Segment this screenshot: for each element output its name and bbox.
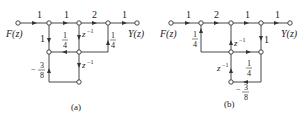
gain-label: 2 xyxy=(214,9,219,20)
gain-numerator: 3 xyxy=(244,83,248,92)
labels-a: 1 1 2 1 F(z) Y(z) 1 1 4 z −1 1 4 z −1 − … xyxy=(5,9,145,112)
arrow-icon xyxy=(106,40,110,45)
arrow-icon xyxy=(77,35,81,40)
arrow-icon xyxy=(274,21,279,25)
arrow-icon xyxy=(122,21,127,25)
gain-label: 1 xyxy=(245,9,250,20)
delay-label: z xyxy=(216,63,221,73)
output-label: Y(z) xyxy=(281,28,298,40)
branch-d-a xyxy=(201,25,229,52)
arrow-icon xyxy=(246,50,251,54)
node-input-b xyxy=(169,21,173,25)
node-b4 xyxy=(229,50,233,54)
arrow-icon xyxy=(62,50,67,54)
arrow-icon xyxy=(244,21,249,25)
arrow-icon xyxy=(199,28,203,33)
node-b5 xyxy=(259,50,263,54)
node-output-b xyxy=(288,21,292,25)
delay-label: z xyxy=(81,60,86,70)
gain-numerator: 1 xyxy=(193,30,197,39)
arrow-icon xyxy=(63,21,68,25)
diagram-a: 1 1 2 1 F(z) Y(z) 1 1 4 z −1 1 4 z −1 − … xyxy=(5,9,145,112)
delay-exponent: −1 xyxy=(239,37,245,43)
delay-exponent: −1 xyxy=(87,59,93,65)
gain-numerator: 3 xyxy=(40,61,44,70)
gain-numerator: 1 xyxy=(111,31,115,40)
arrow-icon xyxy=(47,68,51,73)
input-label: F(z) xyxy=(159,28,177,40)
node-b3 xyxy=(259,21,263,25)
gain-numerator: 1 xyxy=(247,59,251,68)
diagram-b: 1 2 1 1 F(z) Y(z) 1 4 z −1 1 1 4 z −1 − … xyxy=(159,9,298,109)
delay-exponent: −1 xyxy=(222,62,228,68)
gain-denominator: 8 xyxy=(40,71,44,80)
arrow-icon xyxy=(214,21,219,25)
arrow-icon xyxy=(259,36,263,41)
arrow-icon xyxy=(92,21,97,25)
input-label: F(z) xyxy=(5,28,23,40)
gain-denominator: 8 xyxy=(244,93,248,102)
node-input-a xyxy=(16,21,20,25)
gain-denominator: 4 xyxy=(63,41,67,50)
arrow-icon xyxy=(47,38,51,43)
node-a2 xyxy=(77,21,81,25)
arrow-icon xyxy=(185,21,190,25)
gain-label: 1 xyxy=(122,9,127,20)
gain-numerator: 1 xyxy=(63,31,67,40)
gain-label: 1 xyxy=(186,9,191,20)
gain-label: 1 xyxy=(40,33,45,44)
gain-label: 1 xyxy=(264,34,269,45)
gain-denominator: 4 xyxy=(247,69,251,78)
delay-label: z xyxy=(81,29,86,39)
node-a1 xyxy=(47,21,51,25)
arrow-icon xyxy=(229,40,233,45)
branch-g-d xyxy=(49,54,77,82)
node-b1 xyxy=(199,21,203,25)
labels-b: 1 2 1 1 F(z) Y(z) 1 4 z −1 1 1 4 z −1 − … xyxy=(159,9,298,109)
node-a3 xyxy=(106,21,110,25)
arrow-icon xyxy=(77,63,81,68)
arrow-icon xyxy=(229,68,233,73)
arrow-icon xyxy=(32,21,37,25)
caption-a: (a) xyxy=(71,102,81,112)
caption-b: (b) xyxy=(224,99,235,109)
gain-label: 1 xyxy=(64,9,69,20)
node-a5 xyxy=(77,50,81,54)
nodes-a xyxy=(16,21,139,84)
signal-flow-figure: 1 1 2 1 F(z) Y(z) 1 1 4 z −1 1 4 z −1 − … xyxy=(0,0,308,123)
gain-denominator: 4 xyxy=(111,41,115,50)
output-label: Y(z) xyxy=(128,28,145,40)
delay-exponent: −1 xyxy=(87,28,93,34)
nodes-b xyxy=(169,21,292,84)
delay-label: z xyxy=(233,38,238,48)
gain-label: 1 xyxy=(275,9,280,20)
node-b2 xyxy=(229,21,233,25)
gain-label: 1 xyxy=(37,9,42,20)
gain-label: 2 xyxy=(92,9,97,20)
gain-denominator: 4 xyxy=(193,40,197,49)
node-output-a xyxy=(135,21,139,25)
node-b6 xyxy=(229,80,233,84)
gain-sign: − xyxy=(236,85,241,94)
node-a4 xyxy=(47,50,51,54)
node-a6 xyxy=(77,80,81,84)
gain-sign: − xyxy=(31,65,36,74)
